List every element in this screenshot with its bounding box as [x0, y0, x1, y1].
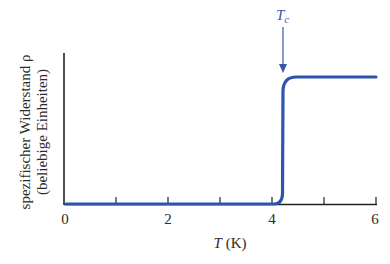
x-tick-label-2: 2: [164, 211, 172, 227]
y-axis-label-line1: spezifischer Widerstand ρ: [17, 55, 33, 210]
x-tick-label-6: 6: [371, 211, 379, 227]
x-tick-label-0: 0: [61, 211, 69, 227]
y-axis-label-line2: (beliebige Einheiten): [34, 69, 51, 195]
tc-arrow-head-icon: [279, 64, 287, 73]
tc-label: Tc: [276, 7, 289, 25]
y-axis-label: spezifischer Widerstand ρ (beliebige Ein…: [17, 55, 51, 210]
resistivity-curve: [66, 77, 376, 204]
chart: spezifischer Widerstand ρ (beliebige Ein…: [0, 0, 390, 264]
x-axis-label: T(K): [213, 235, 246, 252]
x-tick-label-4: 4: [268, 211, 276, 227]
